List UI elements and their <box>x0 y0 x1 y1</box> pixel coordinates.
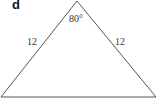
left-side-label: 12 <box>27 36 37 47</box>
isosceles-triangle-diagram: 80° 12 12 <box>0 0 160 108</box>
apex-angle-label: 80° <box>69 13 83 24</box>
right-side-label: 12 <box>115 36 125 47</box>
